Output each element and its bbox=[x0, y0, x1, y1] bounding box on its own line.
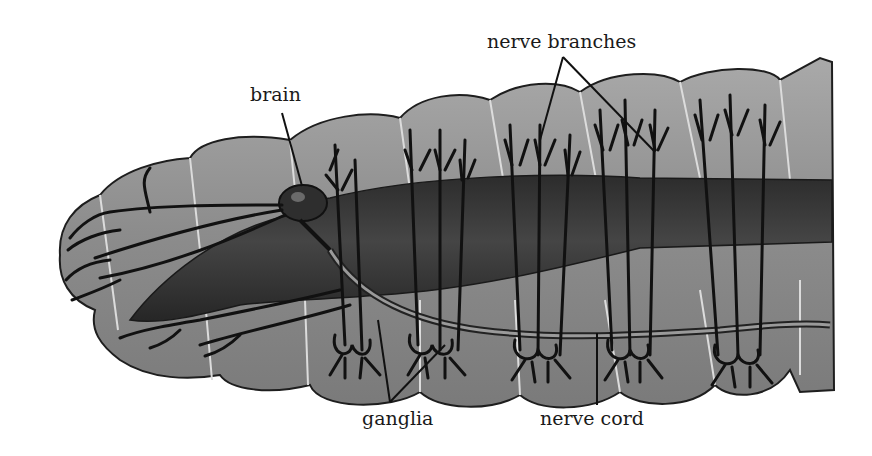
worm-illustration bbox=[0, 0, 872, 456]
label-ganglia: ganglia bbox=[362, 409, 433, 428]
label-nerve-cord: nerve cord bbox=[540, 409, 644, 428]
label-brain: brain bbox=[250, 85, 301, 104]
worm-nervous-system-diagram: brain nerve branches ganglia nerve cord bbox=[0, 0, 872, 456]
label-nerve-branches: nerve branches bbox=[487, 32, 636, 51]
